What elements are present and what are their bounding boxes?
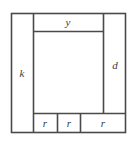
figure-canvas: y k d r r r xyxy=(0,0,139,145)
label-bottom-cell-3: r xyxy=(101,117,106,129)
label-top-bar: y xyxy=(65,16,71,28)
label-right-column: d xyxy=(112,59,118,71)
geometry-figure: y k d r r r xyxy=(0,0,139,145)
label-bottom-cell-1: r xyxy=(43,117,48,129)
label-bottom-cell-2: r xyxy=(67,117,72,129)
